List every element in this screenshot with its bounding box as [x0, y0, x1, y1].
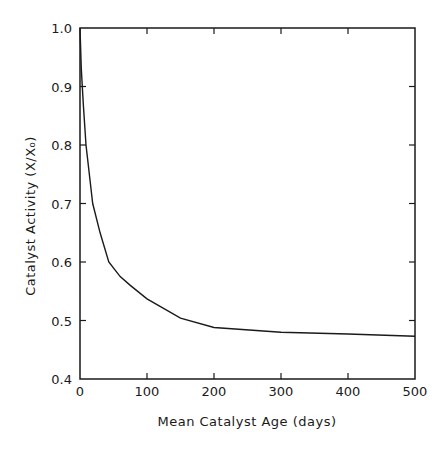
- tick-labels: 01002003004005000.40.50.60.70.80.91.0: [51, 21, 427, 399]
- x-tick-label: 100: [135, 384, 160, 399]
- y-tick-label: 0.4: [51, 372, 72, 387]
- y-tick-label: 0.5: [51, 314, 72, 329]
- x-tick-label: 0: [76, 384, 84, 399]
- x-tick-label: 500: [403, 384, 428, 399]
- x-tick-label: 300: [269, 384, 294, 399]
- activity-curve: [80, 28, 415, 336]
- y-tick-label: 0.8: [51, 138, 72, 153]
- y-tick-label: 0.6: [51, 255, 72, 270]
- x-tick-label: 200: [202, 384, 227, 399]
- y-axis-label: Catalyst Activity (X/X₀): [23, 136, 38, 296]
- x-tick-label: 400: [336, 384, 361, 399]
- y-tick-label: 0.7: [51, 197, 72, 212]
- plot-frame: [80, 28, 415, 379]
- axis-ticks: [80, 28, 415, 379]
- chart: 01002003004005000.40.50.60.70.80.91.0 Me…: [0, 0, 448, 452]
- y-tick-label: 1.0: [51, 21, 72, 36]
- y-tick-label: 0.9: [51, 80, 72, 95]
- x-axis-label: Mean Catalyst Age (days): [157, 414, 336, 429]
